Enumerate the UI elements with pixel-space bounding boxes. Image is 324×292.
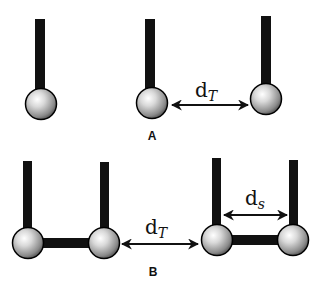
ball (251, 84, 282, 115)
panel-label-a: A (148, 129, 157, 143)
stick (145, 19, 155, 93)
ball (89, 228, 120, 259)
ball (26, 89, 57, 120)
stick (212, 158, 221, 230)
distance-label-ds: ds (245, 186, 265, 212)
panel-b: dT ds B (13, 158, 309, 279)
distance-label-dt-a: dT (195, 78, 219, 104)
stick (100, 162, 109, 233)
ball (137, 88, 168, 119)
molecule-a3 (251, 16, 282, 115)
diagram-canvas: dT A dT ds B (0, 0, 324, 292)
stick (35, 19, 45, 93)
dimer-left (13, 161, 120, 259)
ball (13, 228, 44, 259)
panel-label-b: B (149, 265, 158, 279)
stick (261, 16, 271, 89)
distance-label-dt-b: dT (145, 215, 169, 241)
stick (23, 161, 32, 233)
molecule-a1 (26, 19, 57, 120)
ball (202, 225, 233, 256)
ball (278, 225, 309, 256)
panel-a: dT A (26, 16, 282, 143)
stick (289, 160, 298, 230)
molecule-a2 (137, 19, 168, 119)
